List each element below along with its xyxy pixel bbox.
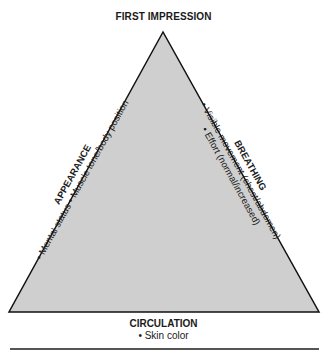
circulation-item-skin-color: • Skin color bbox=[0, 330, 327, 342]
circulation-heading: CIRCULATION bbox=[0, 318, 327, 330]
bottom-divider bbox=[10, 348, 319, 350]
circulation-label-group: CIRCULATION • Skin color bbox=[0, 318, 327, 342]
assessment-triangle bbox=[0, 0, 327, 352]
